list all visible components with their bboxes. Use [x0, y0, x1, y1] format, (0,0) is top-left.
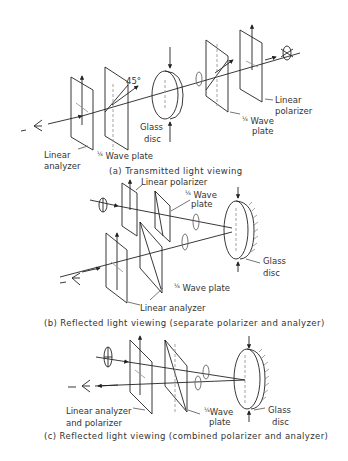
eye-icon-c	[68, 380, 90, 392]
quarter-wave-plate-label-a-left: ¼ Wave plate	[97, 149, 153, 161]
linear-polarizer-label-a-line2: polarizer	[275, 106, 312, 116]
angle-label-45: 45°	[126, 76, 141, 86]
caption-b: (b) Reflected light viewing (separate po…	[44, 318, 325, 328]
glass-disc-label-b-line2: disc	[263, 268, 280, 278]
quarter-wave-plate-label-c-line2: plate	[209, 417, 231, 427]
glass-disc-label-a-line2: disc	[144, 134, 161, 144]
glass-disc-label-c-line1: Glass	[268, 405, 291, 415]
glass-disc-label-c-line2: disc	[272, 417, 289, 427]
linear-polarizer-label-b: Linear polarizer	[141, 177, 207, 187]
optical-diagram	[0, 0, 348, 461]
linear-analyzer-label-a-line2: analyzer	[44, 161, 80, 171]
quarter-wave-plate-label-a-right-line1: ¼ Wave	[242, 114, 274, 126]
linear-polarizer-a	[240, 30, 262, 102]
linear-analyzer-polarizer-c	[130, 340, 152, 414]
linear-analyzer-b	[106, 233, 127, 303]
linear-polarizer-label-a-line1: Linear	[275, 95, 301, 105]
caption-c: (c) Reflected light viewing (combined po…	[44, 431, 328, 441]
caption-a: (a) Transmitted light viewing	[109, 166, 243, 176]
quarter-wave-plate-label-b-top-line2: plate	[191, 199, 213, 209]
linear-analyzer-polarizer-label-c-line2: and polarizer	[66, 418, 122, 428]
eye-icon-a	[21, 120, 42, 131]
glass-disc-label-b-line1: Glass	[263, 256, 286, 266]
linear-analyzer-polarizer-label-c-line1: Linear analyzer	[66, 406, 132, 416]
glass-disc-label-a-line1: Glass	[140, 122, 163, 132]
quarter-wave-plate-label-b-bottom: ¼ Wave plate	[174, 281, 230, 293]
linear-analyzer-label-a-line1: Linear	[44, 150, 70, 160]
quarter-wave-plate-label-a-right-line2: plate	[252, 126, 274, 136]
quarter-wave-plate-label-c-line1: ¼Wave	[204, 405, 233, 417]
linear-analyzer-label-b: Linear analyzer	[140, 303, 206, 313]
